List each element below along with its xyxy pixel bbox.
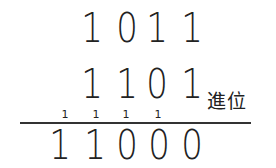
carry-label: 進位 <box>207 92 247 111</box>
digit: 1 <box>144 8 170 48</box>
digit: 1 <box>79 8 105 48</box>
digit: 1 <box>114 64 140 104</box>
digit: 1 <box>179 64 205 104</box>
carry-digit: 1 <box>91 109 101 120</box>
carry-digit: 1 <box>153 109 163 120</box>
digit: 1 <box>82 125 108 165</box>
digit: 0 <box>114 8 140 48</box>
digit: 0 <box>144 64 170 104</box>
digit: 1 <box>179 8 205 48</box>
carry-digit: 1 <box>60 109 70 120</box>
carry-digit: 1 <box>121 109 131 120</box>
digit: 1 <box>79 64 105 104</box>
digit: 0 <box>114 125 140 165</box>
digit: 0 <box>179 125 205 165</box>
digit: 1 <box>47 125 73 165</box>
digit: 0 <box>146 125 172 165</box>
